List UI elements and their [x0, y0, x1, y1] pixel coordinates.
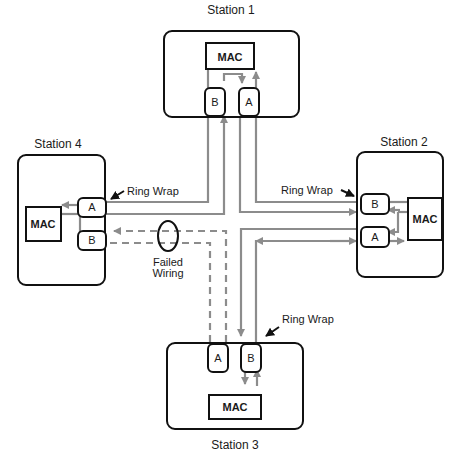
- wire-s1a-s2b-inner: [240, 118, 356, 212]
- station-4-port-b-label: B: [88, 234, 95, 246]
- wire-s2a-s3b-outer: [256, 241, 356, 342]
- station-2-title: Station 2: [380, 135, 428, 149]
- station-3-mac-label: MAC: [222, 401, 247, 413]
- station-2-port-a-label: A: [371, 231, 379, 243]
- station-3-title: Station 3: [211, 438, 259, 452]
- failed-wiring-marker: [158, 221, 178, 251]
- wire-s1-internal-wrap: [224, 74, 242, 83]
- ring-wrap-arrow-station-2: [341, 190, 354, 196]
- failed-wiring-label-line2: Wiring: [152, 267, 183, 279]
- ring-wrap-arrow-station-3: [266, 327, 279, 336]
- station-4-title: Station 4: [34, 137, 82, 151]
- fddi-ring-diagram: Station 1 MAC B A Station 2 MAC B A Stat…: [0, 0, 461, 455]
- ring-wrap-arrow-station-4: [111, 191, 124, 199]
- ring-wrap-label-station-3: Ring Wrap: [282, 313, 334, 325]
- station-1-port-a-label: A: [245, 96, 253, 108]
- station-3-port-b-label: B: [247, 352, 254, 364]
- ring-wrap-label-station-2: Ring Wrap: [281, 184, 333, 196]
- ring-wrap-label-station-4: Ring Wrap: [127, 185, 179, 197]
- station-1-mac-label: MAC: [217, 51, 242, 63]
- station-2-port-b-label: B: [371, 198, 378, 210]
- station-1-title: Station 1: [207, 3, 255, 17]
- station-2-mac-label: MAC: [412, 213, 437, 225]
- station-4-mac-label: MAC: [30, 218, 55, 230]
- station-1-port-b-label: B: [211, 96, 218, 108]
- station-3: [167, 343, 303, 429]
- station-3-port-a-label: A: [214, 352, 222, 364]
- wire-s4a-s1b-inner: [106, 116, 224, 214]
- station-4-port-a-label: A: [88, 201, 96, 213]
